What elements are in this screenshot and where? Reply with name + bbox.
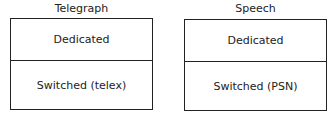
telegraph-title: Telegraph: [10, 2, 153, 15]
speech-title: Speech: [184, 2, 327, 15]
telegraph-switched-cell: Switched (telex): [11, 61, 152, 109]
speech-box: Dedicated Switched (PSN): [184, 19, 327, 111]
speech-dedicated-cell: Dedicated: [185, 20, 326, 61]
telegraph-box: Dedicated Switched (telex): [10, 18, 153, 110]
telegraph-dedicated-cell: Dedicated: [11, 19, 152, 60]
speech-switched-cell: Switched (PSN): [185, 62, 326, 110]
